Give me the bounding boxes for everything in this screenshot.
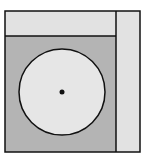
center-dot (60, 90, 65, 95)
diagram-canvas (0, 0, 144, 154)
top-strip (5, 11, 116, 36)
right-strip (116, 11, 140, 152)
